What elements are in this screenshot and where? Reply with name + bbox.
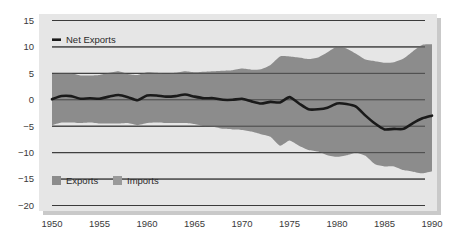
y-tick-label: 5 <box>29 68 34 79</box>
net-exports-line-swatch <box>52 38 61 41</box>
net-exports-area-chart: 151050−5−10−15−20 1950195519601965197019… <box>0 0 475 248</box>
y-tick-label: 15 <box>23 15 34 26</box>
imports-swatch <box>113 176 122 185</box>
y-axis-tick-labels: 151050−5−10−15−20 <box>18 15 34 211</box>
x-tick-label: 1975 <box>279 218 300 229</box>
chart-canvas: 151050−5−10−15−20 1950195519601965197019… <box>0 0 475 248</box>
y-tick-label: 0 <box>29 94 34 105</box>
y-tick-label: 10 <box>23 41 34 52</box>
exports-swatch <box>52 176 61 185</box>
y-tick-label: −5 <box>23 121 34 132</box>
legend-exports-label: Exports <box>66 175 98 186</box>
y-tick-label: −10 <box>18 147 34 158</box>
x-tick-label: 1965 <box>184 218 205 229</box>
x-tick-label: 1955 <box>89 218 110 229</box>
x-tick-label: 1980 <box>326 218 347 229</box>
y-tick-label: −20 <box>18 200 34 211</box>
x-tick-label: 1970 <box>231 218 252 229</box>
x-tick-label: 1950 <box>41 218 62 229</box>
x-tick-label: 1990 <box>421 218 442 229</box>
x-tick-label: 1960 <box>136 218 157 229</box>
x-tick-label: 1985 <box>374 218 395 229</box>
legend-net-exports-label: Net Exports <box>66 34 116 45</box>
legend-imports-label: Imports <box>127 175 159 186</box>
x-axis-tick-labels: 195019551960196519701975198019851990 <box>41 218 442 229</box>
y-tick-label: −15 <box>18 173 34 184</box>
